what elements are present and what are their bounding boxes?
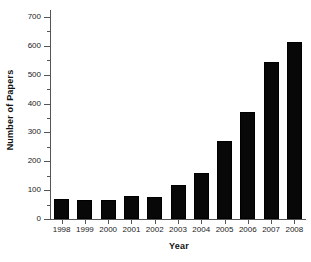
x-tick-label-2008: 2008 [279,225,309,235]
bar-2004 [194,173,209,219]
y-tick-600: 600 [44,46,50,47]
y-tick-label-300: 300 [28,127,41,136]
x-tick-1999 [85,220,86,224]
y-minor-tick-650 [47,31,50,32]
bar-2005 [217,141,232,219]
y-tick-300: 300 [44,132,50,133]
y-minor-tick-550 [47,60,50,61]
x-tick-1998 [62,220,63,224]
bar-2006 [240,112,255,219]
y-tick-500: 500 [44,75,50,76]
bar-chart-figure: Number of Papers 0100200300400500600700 … [0,0,311,262]
y-tick-0: 0 [44,219,50,220]
bar-2001 [124,196,139,219]
x-tick-2002 [155,220,156,224]
bar-1999 [77,200,92,219]
x-tick-2006 [248,220,249,224]
x-tick-2003 [178,220,179,224]
bar-2007 [264,62,279,219]
y-tick-label-400: 400 [28,99,41,108]
bar-2000 [101,200,116,219]
bar-1998 [54,199,69,219]
bar-2008 [287,42,302,219]
y-minor-tick-250 [47,147,50,148]
y-tick-200: 200 [44,161,50,162]
y-tick-label-200: 200 [28,156,41,165]
x-axis-title: Year [50,241,308,251]
x-tick-2008 [294,220,295,224]
x-tick-2007 [271,220,272,224]
y-tick-label-500: 500 [28,70,41,79]
bar-2002 [147,197,162,219]
y-tick-700: 700 [44,17,50,18]
y-axis-title: Number of Papers [0,0,20,220]
x-tick-2004 [201,220,202,224]
x-tick-2001 [131,220,132,224]
y-tick-label-600: 600 [28,41,41,50]
y-tick-400: 400 [44,104,50,105]
x-tick-2005 [225,220,226,224]
y-minor-tick-50 [47,205,50,206]
bar-2003 [171,185,186,219]
y-axis-line [50,10,51,220]
y-tick-100: 100 [44,190,50,191]
y-minor-tick-150 [47,176,50,177]
y-minor-tick-450 [47,89,50,90]
y-minor-tick-350 [47,118,50,119]
x-tick-2000 [108,220,109,224]
y-axis-title-text: Number of Papers [5,70,15,151]
y-tick-label-0: 0 [37,214,41,223]
y-tick-label-100: 100 [28,185,41,194]
y-tick-label-700: 700 [28,12,41,21]
